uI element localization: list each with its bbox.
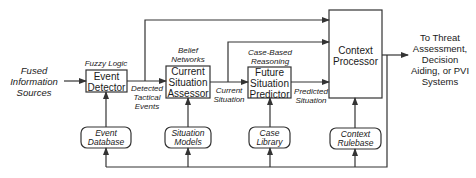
- flow-current-situation: Current Situation: [210, 86, 248, 104]
- flow-predicted-line2: Situation: [291, 96, 331, 105]
- output-line2: Assessment,: [405, 43, 475, 54]
- fsp-line1: Future: [248, 67, 291, 78]
- flow-predicted-line1: Predicted: [291, 87, 331, 96]
- situation-models-label: Situation Models: [165, 129, 211, 147]
- flow-detected-line2: Tactical: [127, 93, 167, 102]
- case-library-line2: Library: [249, 138, 290, 147]
- flow-current-line2: Situation: [210, 95, 248, 104]
- fsp-method: Case-Based Reasoning: [240, 48, 300, 66]
- fsp-line3: Predictor: [248, 89, 291, 100]
- output-label: To Threat Assessment, Decision Aiding, o…: [405, 32, 475, 87]
- event-database-label: Event Database: [81, 129, 131, 147]
- event-detector-label: Event Detector: [86, 71, 127, 93]
- cp-line2: Processor: [329, 56, 382, 67]
- context-rulebase-line2: Rulebase: [330, 139, 381, 148]
- flow-detected-events: Detected Tactical Events: [127, 84, 167, 111]
- flow-detected-line3: Events: [127, 102, 167, 111]
- event-detector-method: Fuzzy Logic: [80, 59, 132, 68]
- flow-detected-line1: Detected: [127, 84, 167, 93]
- csa-method-line1: Belief: [166, 46, 210, 55]
- case-library-label: Case Library: [249, 129, 290, 147]
- event-detector-line2: Detector: [86, 82, 127, 93]
- flow-current-line1: Current: [210, 86, 248, 95]
- fsp-line2: Situation: [248, 78, 291, 89]
- event-database-line2: Database: [81, 138, 131, 147]
- event-detector-line1: Event: [86, 71, 127, 82]
- output-line3: Decision: [405, 54, 475, 65]
- output-line4: Aiding, or PVI: [405, 65, 475, 76]
- fsp-method-line2: Reasoning: [240, 57, 300, 66]
- input-label: Fused Information Sources: [4, 65, 64, 98]
- csa-line1: Current: [166, 66, 210, 77]
- context-rulebase-label: Context Rulebase: [330, 130, 381, 148]
- output-line5: Systems: [405, 76, 475, 87]
- fsp-method-line1: Case-Based: [240, 48, 300, 57]
- output-line1: To Threat: [405, 32, 475, 43]
- csa-method-line2: Networks: [166, 55, 210, 64]
- csa-label: Current Situation Assessor: [166, 66, 210, 99]
- csa-method: Belief Networks: [166, 46, 210, 64]
- fsp-label: Future Situation Predictor: [248, 67, 291, 100]
- csa-line3: Assessor: [166, 88, 210, 99]
- context-processor-label: Context Processor: [329, 45, 382, 67]
- situation-models-line2: Models: [165, 138, 211, 147]
- csa-line2: Situation: [166, 77, 210, 88]
- cp-line1: Context: [329, 45, 382, 56]
- flow-predicted-situation: Predicted Situation: [291, 87, 331, 105]
